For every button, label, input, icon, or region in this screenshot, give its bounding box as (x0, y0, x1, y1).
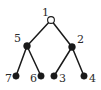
tree-node[interactable] (51, 73, 57, 79)
node-label: 5 (14, 33, 21, 44)
node-label: 7 (5, 73, 12, 84)
tree-edge (16, 46, 27, 76)
nodes-group (13, 17, 87, 80)
node-label: 6 (30, 73, 37, 84)
tree-graphics (0, 0, 101, 90)
node-label: 1 (42, 7, 49, 18)
tree-node[interactable] (81, 73, 87, 79)
node-label: 2 (77, 34, 84, 45)
tree-edge (72, 47, 84, 76)
node-label: 4 (89, 73, 96, 84)
tree-edge (27, 20, 51, 46)
tree-node[interactable] (38, 73, 44, 79)
tree-node[interactable] (69, 44, 76, 51)
tree-node[interactable] (13, 73, 19, 79)
binary-tree-figure: 1527634 (0, 0, 101, 90)
tree-node[interactable] (24, 43, 31, 50)
tree-edge (51, 20, 72, 47)
node-label: 3 (59, 73, 66, 84)
